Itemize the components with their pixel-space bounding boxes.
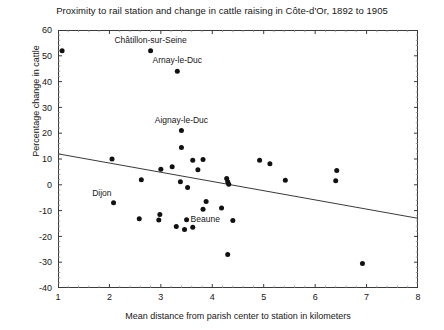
x-tick-label: 3	[158, 292, 163, 302]
data-point	[60, 48, 65, 53]
y-tick-label: 0	[47, 180, 52, 190]
x-tick-label: 1	[55, 292, 60, 302]
x-tick-label: 5	[261, 292, 266, 302]
data-point	[204, 199, 209, 204]
x-tick-label: 4	[210, 292, 215, 302]
data-point	[137, 216, 142, 221]
y-tick-label: 30	[42, 103, 52, 113]
data-point	[225, 252, 230, 257]
y-axis-label: Percentage change in cattle	[31, 21, 41, 181]
x-tick-label: 2	[107, 292, 112, 302]
data-point	[175, 69, 180, 74]
chart-title: Proximity to rail station and change in …	[0, 5, 444, 16]
trend-line	[58, 154, 418, 219]
data-point	[219, 206, 224, 211]
y-tick-label: 60	[42, 25, 52, 35]
point-label: Aignay-le-Duc	[155, 115, 209, 125]
data-point	[257, 158, 262, 163]
data-point	[185, 185, 190, 190]
data-point	[230, 218, 235, 223]
point-label: Beaune	[191, 214, 221, 224]
data-point	[110, 157, 115, 162]
data-point	[190, 225, 195, 230]
scatter-plot-svg: Châtillon-sur-SeineArnay-le-DucAignay-le…	[58, 30, 418, 288]
data-point	[333, 178, 338, 183]
y-tick-label: 10	[42, 154, 52, 164]
data-point	[156, 217, 161, 222]
x-tick-labels: 12345678	[55, 292, 420, 302]
point-label: Arnay-le-Duc	[153, 55, 203, 65]
x-tick-label: 8	[415, 292, 420, 302]
data-point	[179, 145, 184, 150]
x-axis-label: Mean distance from parish center to stat…	[58, 311, 418, 321]
data-point	[148, 48, 153, 53]
chart-figure: Proximity to rail station and change in …	[0, 0, 444, 330]
data-point	[334, 168, 339, 173]
data-point	[283, 178, 288, 183]
data-point	[201, 207, 206, 212]
data-point	[157, 212, 162, 217]
point-label: Châtillon-sur-Seine	[114, 35, 187, 45]
data-point	[111, 200, 116, 205]
y-tick-label: 50	[42, 51, 52, 61]
plot-area: Châtillon-sur-SeineArnay-le-DucAignay-le…	[58, 30, 418, 288]
data-point	[182, 227, 187, 232]
y-tick-label: 20	[42, 128, 52, 138]
y-tick-label: -40	[39, 283, 52, 293]
point-label: Dijon	[92, 188, 112, 198]
data-points	[60, 48, 365, 266]
y-tick-label: -10	[39, 206, 52, 216]
data-point	[226, 182, 231, 187]
data-point	[158, 167, 163, 172]
data-point	[195, 167, 200, 172]
data-point	[184, 217, 189, 222]
y-tick-label: 40	[42, 77, 52, 87]
data-point	[360, 261, 365, 266]
data-point	[179, 128, 184, 133]
point-labels: Châtillon-sur-SeineArnay-le-DucAignay-le…	[92, 35, 220, 224]
data-point	[267, 161, 272, 166]
x-tick-label: 6	[313, 292, 318, 302]
data-point	[178, 179, 183, 184]
data-point	[170, 164, 175, 169]
y-tick-label: -30	[39, 257, 52, 267]
data-point	[201, 157, 206, 162]
x-tick-label: 7	[364, 292, 369, 302]
y-tick-label: -20	[39, 232, 52, 242]
data-point	[174, 224, 179, 229]
data-point	[139, 177, 144, 182]
data-point	[190, 158, 195, 163]
